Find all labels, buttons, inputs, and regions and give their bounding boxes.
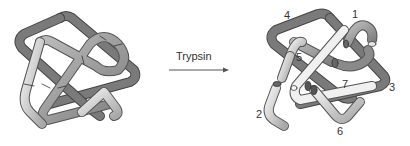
reaction-arrow bbox=[169, 68, 229, 73]
fragment-label-6: 6 bbox=[337, 126, 343, 137]
fragment-label-2: 2 bbox=[256, 109, 262, 120]
diagram-canvas: Trypsin 4 1 5 7 3 2 6 bbox=[0, 0, 410, 146]
fragment-label-1: 1 bbox=[352, 9, 358, 20]
fragment-label-7: 7 bbox=[342, 79, 348, 90]
protein-diagram-svg bbox=[0, 0, 410, 146]
arrow-label: Trypsin bbox=[176, 50, 212, 62]
fragment-label-3: 3 bbox=[389, 82, 395, 93]
fragment-label-5: 5 bbox=[296, 52, 302, 63]
cleaved-fragments bbox=[269, 14, 386, 127]
intact-chain bbox=[19, 16, 135, 124]
fragment-label-4: 4 bbox=[284, 10, 290, 21]
fragment-2 bbox=[269, 82, 284, 127]
cleavage-mark bbox=[42, 84, 50, 88]
